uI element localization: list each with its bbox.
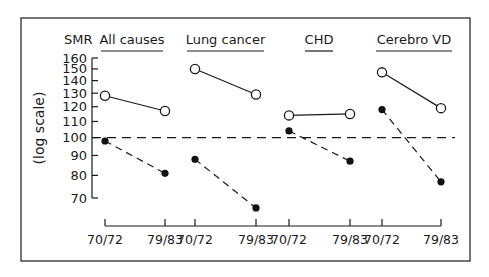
series-line (195, 69, 256, 95)
open-circle-marker (436, 104, 445, 113)
x-tick-label: 70/72 (87, 232, 123, 247)
smr-chart: SMR (log scale) 708090100110120130140150… (0, 0, 489, 277)
y-tick-label: 100 (62, 130, 87, 145)
y-tick-label: 80 (70, 168, 87, 183)
filled-circle-marker (346, 158, 353, 165)
series-line (382, 110, 441, 182)
panels: All causesLung cancerCHDCerebro VD (99, 32, 452, 212)
open-circle-marker (251, 90, 260, 99)
x-axis: 70/7279/8370/7279/8370/7279/8370/7279/83 (87, 219, 459, 247)
panel-title: All causes (99, 32, 164, 47)
y-tick-label: 110 (62, 114, 87, 129)
y-tick-label: 120 (62, 99, 87, 114)
open-circle-marker (190, 64, 199, 73)
open-circle-marker (345, 109, 354, 118)
filled-circle-marker (161, 170, 168, 177)
series-line (382, 72, 441, 108)
series-line (289, 114, 350, 115)
panel-all-causes: All causes (99, 32, 169, 177)
x-tick-label: 79/83 (332, 232, 368, 247)
panel-title: Lung cancer (186, 32, 266, 47)
chart-frame (21, 18, 470, 261)
filled-circle-marker (191, 156, 198, 163)
x-tick-label: 70/72 (271, 232, 307, 247)
filled-circle-marker (437, 178, 444, 185)
open-circle-marker (377, 68, 386, 77)
y-axis-title: SMR (64, 32, 93, 47)
x-tick-label: 70/72 (177, 232, 213, 247)
y-axis-scale-note: (log scale) (31, 92, 47, 165)
open-circle-marker (100, 91, 109, 100)
panel-title: CHD (305, 32, 334, 47)
series-line (289, 131, 350, 161)
y-axis: 708090100110120130140150160 (62, 51, 98, 206)
series-line (195, 159, 256, 208)
x-tick-label: 79/83 (423, 232, 459, 247)
filled-circle-marker (285, 127, 292, 134)
filled-circle-marker (378, 106, 385, 113)
open-circle-marker (284, 111, 293, 120)
open-circle-marker (160, 106, 169, 115)
filled-circle-marker (101, 137, 108, 144)
y-tick-label: 90 (70, 148, 87, 163)
y-tick-label: 70 (70, 191, 87, 206)
series-line (105, 141, 165, 173)
panel-title: Cerebro VD (377, 32, 451, 47)
panel-cerebro-vd: Cerebro VD (376, 32, 452, 185)
series-line (105, 96, 165, 111)
panel-lung-cancer: Lung cancer (186, 32, 266, 212)
filled-circle-marker (252, 204, 259, 211)
y-tick-label: 160 (62, 51, 87, 66)
x-tick-label: 70/72 (364, 232, 400, 247)
panel-chd: CHD (284, 32, 354, 165)
x-tick-label: 79/83 (238, 232, 274, 247)
